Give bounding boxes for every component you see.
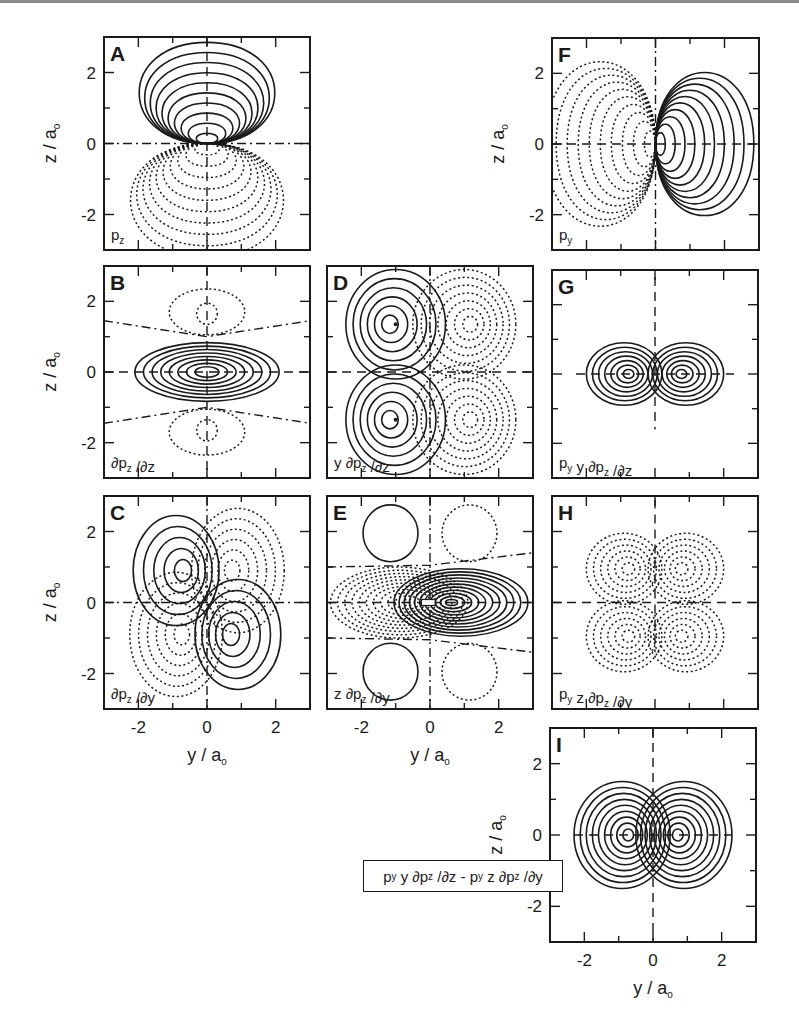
contour-group — [545, 38, 759, 250]
label-part: y ∂p — [396, 868, 428, 885]
y-tick-label: 2 — [535, 64, 544, 83]
panel-a: Apz20-2z / ao — [40, 37, 310, 257]
panel-letter: E — [333, 501, 347, 524]
panel-function-label: py y ∂pz /∂z — [559, 454, 632, 479]
panel-function-label: z ∂pz /∂y — [334, 685, 390, 706]
panel-h: Hpy z ∂pz /∂y — [552, 496, 758, 710]
y-tick-label: 0 — [535, 135, 544, 154]
y-tick-label: 2 — [87, 292, 96, 311]
x-tick-label: 0 — [648, 951, 657, 970]
panel-letter: H — [558, 501, 573, 524]
x-tick-label: -2 — [577, 951, 592, 970]
panel-b: B∂pz /∂z20-2z / ao — [40, 266, 310, 478]
x-tick-label: 2 — [494, 718, 503, 737]
y-tick-label: -2 — [529, 206, 544, 225]
panel-function-label: ∂pz /∂y — [111, 685, 156, 706]
contour-group — [104, 496, 310, 709]
panel-letter: F — [558, 43, 571, 66]
y-axis-title: z / ao — [40, 582, 62, 622]
x-tick-label: 0 — [425, 718, 434, 737]
panel-f: Fpy20-2z / ao — [488, 38, 759, 250]
panel-letter: C — [110, 501, 125, 524]
panel-d: Dy ∂pz /∂z — [327, 266, 533, 478]
panel-letter: I — [556, 733, 562, 756]
y-axis-title: z / ao — [488, 124, 510, 164]
panel-function-label: ∂pz /∂z — [111, 454, 155, 475]
contour-group — [104, 37, 310, 257]
label-part: p — [383, 868, 391, 885]
y-tick-label: 2 — [87, 64, 96, 83]
label-part: /∂y — [520, 868, 543, 885]
panel-e: Ez ∂pz /∂y-202y / ao — [327, 496, 533, 767]
panel-letter: D — [333, 271, 348, 294]
panel-function-label: py z ∂pz /∂y — [559, 685, 633, 710]
y-tick-label: -2 — [527, 897, 542, 916]
contour-group — [327, 266, 533, 478]
contour-group — [576, 277, 734, 430]
contour-group — [104, 266, 310, 478]
x-tick-label: -2 — [131, 718, 146, 737]
y-tick-label: 0 — [87, 594, 96, 613]
y-axis-title: z / ao — [486, 815, 508, 855]
combined-function-label: py y ∂pz /∂z - py z ∂pz /∂y — [363, 860, 563, 892]
x-axis-title: y / ao — [187, 745, 227, 767]
y-tick-label: -2 — [81, 665, 96, 684]
panel-letter: A — [110, 42, 125, 65]
y-tick-label: -2 — [81, 434, 96, 453]
label-part: /∂z - p — [433, 868, 478, 885]
x-axis-title: y / ao — [633, 978, 673, 1000]
panel-letter: B — [110, 271, 125, 294]
panel-letter: G — [558, 275, 574, 298]
contour-group — [327, 496, 533, 709]
panel-c: C∂pz /∂y20-2z / ao-202y / ao — [40, 496, 310, 767]
x-tick-label: 0 — [202, 718, 211, 737]
panel-function-label: y ∂pz /∂z — [334, 454, 390, 475]
y-tick-label: -2 — [81, 206, 96, 225]
contour-group — [574, 728, 732, 942]
y-tick-label: 0 — [533, 826, 542, 845]
x-axis-title: y / ao — [410, 745, 450, 767]
label-part: z ∂p — [483, 868, 515, 885]
y-tick-label: 0 — [87, 363, 96, 382]
y-axis-title: z / ao — [40, 352, 62, 392]
y-tick-label: 0 — [87, 135, 96, 154]
panel-g: Gpy y ∂pz /∂z — [552, 270, 758, 479]
y-tick-label: 2 — [533, 755, 542, 774]
y-axis-title: z / ao — [40, 123, 62, 163]
y-tick-label: 2 — [87, 523, 96, 542]
x-tick-label: 2 — [271, 718, 280, 737]
x-tick-label: 2 — [717, 951, 726, 970]
contour-group — [552, 500, 758, 672]
panel-function-label: pz — [111, 226, 124, 246]
x-tick-label: -2 — [354, 718, 369, 737]
panel-function-label: py — [559, 226, 572, 246]
